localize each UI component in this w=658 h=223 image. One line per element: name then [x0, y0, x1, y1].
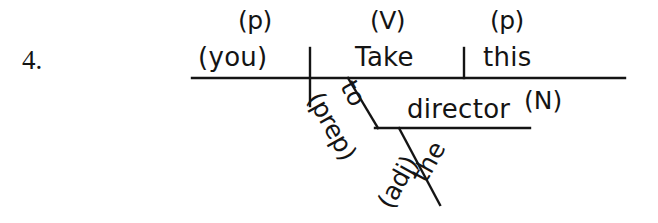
pos-tag-subject: (p) — [238, 8, 272, 33]
sentence-diagram-canvas: 4. (p) (you) (V) Take (p) this to (prep)… — [0, 0, 658, 223]
pos-tag-verb: (V) — [370, 8, 405, 33]
word-subject: (you) — [198, 44, 268, 70]
word-verb: Take — [355, 44, 414, 70]
pos-tag-object: (p) — [490, 8, 524, 33]
word-object: this — [483, 44, 532, 70]
exercise-number: 4. — [22, 47, 42, 74]
pos-tag-object-of-preposition: (N) — [524, 88, 562, 113]
word-object-of-preposition: director — [407, 96, 510, 122]
